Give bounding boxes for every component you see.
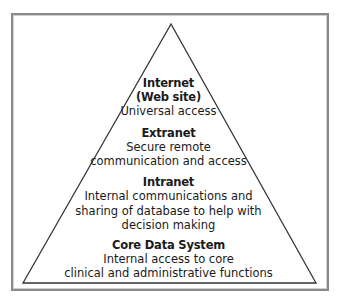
- level-description: Secure remote: [0, 140, 337, 154]
- level-description: clinical and administrative functions: [0, 266, 337, 280]
- level-title: Intranet: [0, 175, 337, 189]
- level-description: Universal access: [0, 104, 337, 118]
- level-description: Internal communications and: [0, 189, 337, 203]
- level-description: Internal access to core: [0, 252, 337, 266]
- level-title: Core Data System: [0, 238, 337, 252]
- level-description: decision making: [0, 218, 337, 232]
- level-title: Internet: [0, 76, 337, 90]
- level-description: sharing of database to help with: [0, 204, 337, 218]
- level-subtitle: (Web site): [0, 90, 337, 104]
- level-description: communication and access: [0, 154, 337, 168]
- level-title: Extranet: [0, 126, 337, 140]
